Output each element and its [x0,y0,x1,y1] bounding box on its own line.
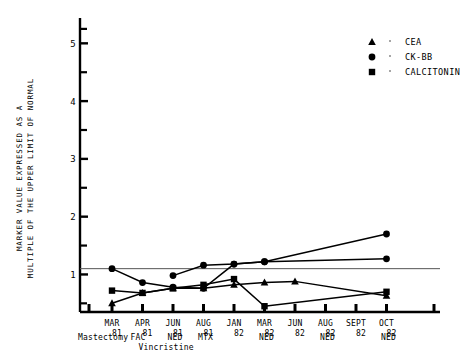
data-point-calcitonin [170,285,176,291]
x-tick-label-month: AUG [318,319,333,328]
x-tick-label-month: OCT [379,319,394,328]
annotation-fac: FAC [131,333,146,342]
marker-value-line-chart: 12345MARKER VALUE EXPRESSED AS AMULTIPLE… [0,0,462,358]
y-tick-label: 1 [70,270,75,280]
annotation-mastectomy: Mastectomy [78,333,128,342]
annotation-ned-jun81: NED [167,333,182,342]
data-point-calcitonin [200,282,206,288]
legend-marker-cea [368,38,376,45]
data-point-ck-bb-upper [170,272,177,279]
data-point-ck-bb-upper [200,262,207,269]
data-point-ck-bb-upper [261,258,268,265]
data-point-calcitonin [231,276,237,282]
legend-label-ck-bb: CK-BB [405,52,433,62]
x-tick-label-month: JUN [165,319,180,328]
legend-dot-ck-bb [389,55,391,57]
annotation-ned-oct82: NED [381,333,396,342]
y-tick-label: 4 [70,97,75,107]
x-tick-label-month: JAN [226,319,241,328]
y-axis-title-line2: MULTIPLE OF THE UPPER LIMIT OF NORMAL [26,78,35,278]
annotation-ned-aug82: NED [320,333,335,342]
x-tick-label-month: JUN [287,319,302,328]
y-axis-title-line1: MARKER VALUE EXPRESSED AS A [15,105,24,251]
chart-figure: 12345MARKER VALUE EXPRESSED AS AMULTIPLE… [0,0,462,358]
x-tick-label-year: 82 [356,329,366,338]
x-tick-label-month: MAR [257,319,272,328]
data-point-calcitonin [139,290,145,296]
legend-dot-cea [389,40,391,42]
legend-label-cea: CEA [405,37,422,47]
annotation-vincristine: Vincristine [139,343,194,352]
x-tick-label-year: 82 [295,329,305,338]
data-point-calcitonin [383,289,389,295]
annotation-mtx: MTX [198,333,213,342]
series-line-ck-bb-upper [173,234,387,276]
annotation-ned-mar82: NED [259,333,274,342]
data-point-ck-bb [383,255,390,262]
x-tick-label-month: AUG [196,319,211,328]
y-tick-label: 3 [70,154,75,164]
y-tick-label: 5 [70,39,75,49]
legend-dot-calcitonin [389,70,391,72]
data-point-ck-bb-upper [231,261,238,268]
x-tick-label-month: APR [135,319,150,328]
legend-label-calcitonin: CALCITONIN [405,67,460,77]
data-point-calcitonin [261,303,267,309]
x-tick-label-month: MAR [104,319,119,328]
legend-marker-calcitonin [369,69,375,75]
x-tick-label-month: SEPT [346,319,366,328]
legend-marker-ck-bb [369,54,376,61]
data-point-ck-bb [109,265,116,272]
data-point-ck-bb [139,279,146,286]
data-point-calcitonin [109,287,115,293]
y-tick-label: 2 [70,212,75,222]
x-tick-label-year: 82 [234,329,244,338]
data-point-ck-bb-upper [383,231,390,238]
